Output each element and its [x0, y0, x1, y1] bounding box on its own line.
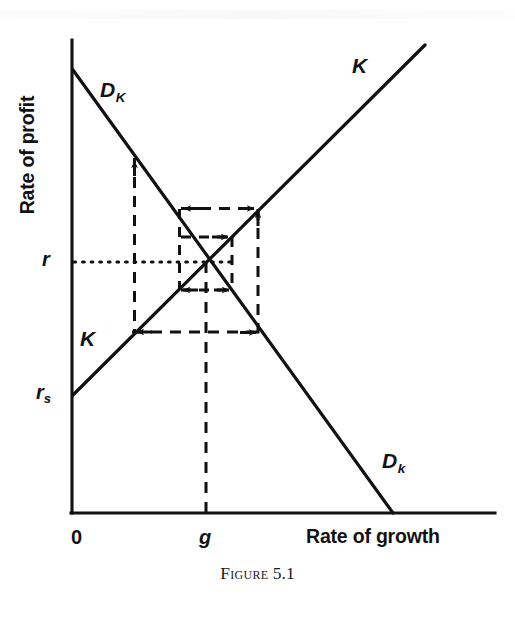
curve-label-dk-lower-base: D — [382, 449, 397, 472]
y-tick-label-r: r — [42, 249, 50, 269]
figure-caption: Figure 5.1 — [0, 563, 515, 584]
curve-label-dk-lower-subscript: k — [398, 461, 406, 476]
curve-label-dk-upper-base: D — [100, 78, 115, 101]
x-tick-label-g: g — [199, 527, 211, 547]
curve-k-line — [73, 45, 425, 395]
figure-caption-prefix: Figure — [220, 563, 268, 583]
y-axis-title: Rate of profit — [8, 40, 48, 270]
curve-label-dk-upper-subscript: K — [116, 90, 126, 105]
figure-container: Rate of profit Rate of growth 0 g r rs D… — [0, 0, 515, 629]
construction-arrow-stubs — [135, 161, 259, 333]
curve-lines — [73, 45, 425, 513]
curve-label-dk-upper: DK — [100, 79, 125, 100]
y-tick-label-rs-subscript: s — [44, 391, 51, 406]
y-axis-title-text: Rate of profit — [18, 96, 38, 215]
construction-dashed-outer — [132, 158, 258, 334]
figure-caption-number: 5.1 — [273, 563, 295, 583]
y-tick-label-rs: rs — [36, 382, 51, 402]
curve-label-k-upper: K — [352, 55, 367, 76]
curve-label-dk-lower: Dk — [382, 450, 405, 471]
curve-dk-line — [73, 70, 393, 513]
origin-label: 0 — [71, 527, 82, 547]
x-axis-title: Rate of growth — [306, 527, 440, 547]
curve-label-k-upper-base: K — [352, 54, 367, 77]
curve-label-k-lower: K — [80, 328, 95, 349]
curve-label-k-lower-base: K — [80, 327, 95, 350]
y-tick-label-rs-base: r — [36, 381, 44, 403]
